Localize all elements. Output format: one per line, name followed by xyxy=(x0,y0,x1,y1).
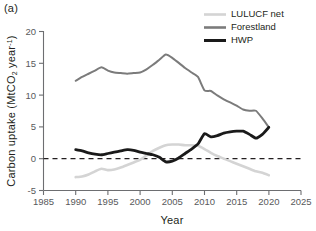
figure-panel-a: (a) 20 15 10 5 0 -5 xyxy=(0,0,316,231)
x-tick-label-2015: 2015 xyxy=(226,196,247,207)
x-tick-label-2025: 2025 xyxy=(290,196,311,207)
y-axis-title-main: Carbon uptake (MtCO xyxy=(5,75,17,187)
y-axis-title-superscript: -1 xyxy=(6,39,13,46)
y-tick-label-10: 10 xyxy=(25,90,36,101)
x-tick-label-1995: 1995 xyxy=(97,196,118,207)
legend: LULUCF net Forestland HWP xyxy=(204,8,284,45)
line-chart: 20 15 10 5 0 -5 1985 1990 1995 2000 2005… xyxy=(0,0,316,231)
x-axis-ticks xyxy=(44,191,302,196)
series-line-forestland xyxy=(76,55,269,128)
x-tick-label-2005: 2005 xyxy=(162,196,183,207)
y-axis-title: Carbon uptake (MtCO2 year-1) xyxy=(5,35,18,186)
y-tick-label-neg5: -5 xyxy=(28,185,36,196)
legend-label-lulucf-net: LULUCF net xyxy=(231,8,284,19)
legend-label-hwp: HWP xyxy=(231,34,253,45)
y-tick-label-5: 5 xyxy=(31,121,36,132)
x-tick-label-2010: 2010 xyxy=(194,196,215,207)
x-tick-label-2000: 2000 xyxy=(130,196,151,207)
y-axis-ticks xyxy=(39,32,44,191)
y-axis-title-mid: year xyxy=(5,46,17,72)
y-tick-label-0: 0 xyxy=(31,153,36,164)
x-tick-label-1990: 1990 xyxy=(65,196,86,207)
x-axis-title: Year xyxy=(160,214,183,226)
y-tick-label-20: 20 xyxy=(25,26,36,37)
y-axis-title-close: ) xyxy=(5,35,17,39)
y-tick-label-15: 15 xyxy=(25,58,36,69)
x-tick-label-2020: 2020 xyxy=(258,196,279,207)
x-tick-label-1985: 1985 xyxy=(33,196,54,207)
legend-label-forestland: Forestland xyxy=(231,21,276,32)
